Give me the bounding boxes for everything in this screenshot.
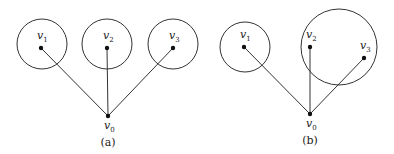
vertex-label: v1: [240, 28, 251, 43]
neighborhood-circle: [17, 19, 67, 69]
root-label: v0: [306, 117, 317, 132]
vertex-node: [105, 46, 109, 50]
edge: [244, 47, 310, 114]
edge: [41, 48, 108, 116]
vertex-label: v3: [360, 39, 371, 54]
vertex-node: [171, 46, 175, 50]
neighborhood-circle: [148, 19, 198, 69]
diagram-canvas: v1v2v3v0(a)v1v2v3v0(b): [0, 0, 394, 154]
root-label: v0: [104, 119, 115, 134]
root-vertex: [106, 114, 110, 118]
vertex-node: [308, 45, 312, 49]
vertex-label: v3: [169, 29, 180, 44]
root-vertex: [308, 112, 312, 116]
vertex-label: v1: [37, 29, 48, 44]
figure-a: v1v2v3v0(a): [17, 19, 198, 149]
edge: [107, 48, 108, 116]
vertex-node: [362, 56, 366, 60]
figure-caption: (a): [100, 136, 115, 149]
edge: [310, 58, 364, 114]
edge: [108, 48, 173, 116]
vertex-label: v2: [103, 29, 114, 44]
vertex-node: [39, 46, 43, 50]
vertex-node: [242, 45, 246, 49]
figure-caption: (b): [302, 134, 318, 147]
figure-b: v1v2v3v0(b): [220, 9, 377, 147]
vertex-label: v2: [306, 28, 317, 43]
